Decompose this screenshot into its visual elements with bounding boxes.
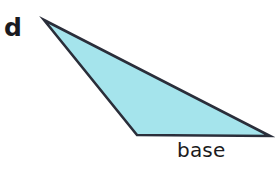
figure-container: d base <box>0 0 278 170</box>
base-label: base <box>177 140 225 160</box>
triangle-shape <box>44 20 270 136</box>
part-letter-label: d <box>4 15 22 40</box>
triangle-diagram-svg <box>0 0 278 170</box>
